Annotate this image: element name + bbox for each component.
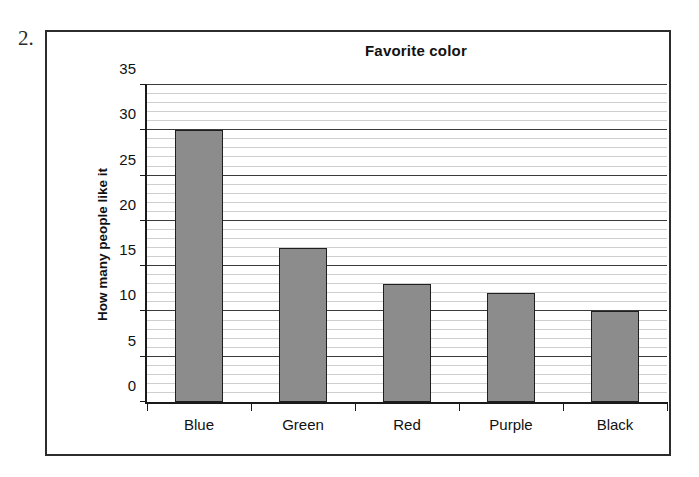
y-tick-mark bbox=[140, 84, 147, 85]
bar-slot bbox=[147, 85, 251, 402]
y-tick-mark bbox=[140, 220, 147, 221]
x-tick-mark bbox=[563, 402, 564, 411]
x-tick-mark bbox=[667, 402, 668, 411]
x-tick-mark bbox=[251, 402, 252, 411]
y-tick-mark bbox=[140, 175, 147, 176]
y-tick-mark bbox=[140, 356, 147, 357]
plot-area: 05101520253035 BlueGreenRedPurpleBlack bbox=[145, 85, 667, 404]
chart-title: Favorite color bbox=[365, 42, 467, 59]
bar-series bbox=[147, 85, 667, 402]
y-tick-label: 10 bbox=[101, 286, 147, 303]
bar[interactable] bbox=[279, 248, 328, 402]
bar[interactable] bbox=[175, 130, 224, 402]
chart-frame: Favorite color How many people like it 0… bbox=[45, 30, 671, 456]
y-tick-label: 35 bbox=[101, 60, 147, 77]
y-tick-label: 15 bbox=[101, 241, 147, 258]
y-tick-label: 20 bbox=[101, 195, 147, 212]
bar[interactable] bbox=[487, 293, 536, 402]
bar-slot bbox=[355, 85, 459, 402]
x-tick-mark bbox=[355, 402, 356, 411]
question-number: 2. bbox=[18, 26, 34, 51]
x-tick-label: Black bbox=[563, 416, 667, 433]
y-tick-mark bbox=[140, 129, 147, 130]
x-tick-label: Purple bbox=[459, 416, 563, 433]
bar-slot bbox=[563, 85, 667, 402]
x-tick-label: Blue bbox=[147, 416, 251, 433]
chart-title-container: Favorite color bbox=[47, 42, 673, 59]
x-tick-label: Green bbox=[251, 416, 355, 433]
bar[interactable] bbox=[591, 311, 640, 402]
y-tick-label: 30 bbox=[101, 105, 147, 122]
worksheet-page: 2. Favorite color How many people like i… bbox=[0, 0, 699, 477]
bar[interactable] bbox=[383, 284, 432, 402]
y-tick-label: 0 bbox=[101, 377, 147, 394]
x-tick-mark bbox=[147, 402, 148, 411]
bar-slot bbox=[251, 85, 355, 402]
x-axis-ticks bbox=[147, 402, 667, 411]
y-tick-mark bbox=[140, 310, 147, 311]
y-tick-mark bbox=[140, 265, 147, 266]
bar-slot bbox=[459, 85, 563, 402]
x-tick-label: Red bbox=[355, 416, 459, 433]
y-tick-label: 5 bbox=[101, 331, 147, 348]
x-axis-labels: BlueGreenRedPurpleBlack bbox=[147, 416, 667, 433]
y-tick-label: 25 bbox=[101, 150, 147, 167]
y-tick-mark bbox=[140, 401, 147, 402]
x-tick-mark bbox=[459, 402, 460, 411]
